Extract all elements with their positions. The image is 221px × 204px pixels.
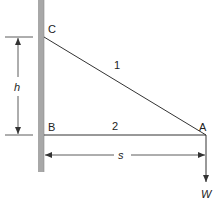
bracket-diagram: h s W C B A 1 2 (0, 0, 221, 204)
point-b-label: B (48, 121, 55, 133)
load-label: W (201, 188, 213, 200)
point-a-label: A (199, 121, 207, 133)
member-1-label: 1 (114, 59, 120, 71)
h-label: h (14, 81, 20, 93)
wall (38, 0, 44, 172)
member-1 (44, 37, 206, 135)
member-2-label: 2 (112, 120, 118, 132)
s-label: s (118, 149, 124, 161)
point-c-label: C (48, 23, 56, 35)
